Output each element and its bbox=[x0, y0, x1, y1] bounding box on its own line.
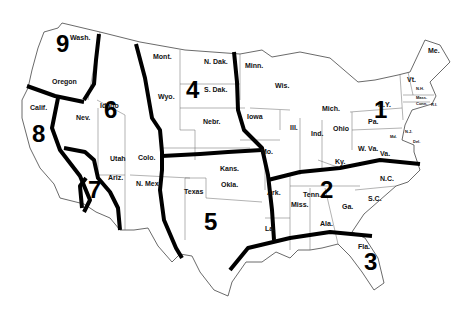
state-label: Ga. bbox=[342, 203, 353, 210]
state-label: Mass. bbox=[416, 96, 427, 100]
region-number: 4 bbox=[186, 78, 199, 102]
region-number: 1 bbox=[374, 98, 387, 122]
state-label: Wash. bbox=[70, 34, 90, 41]
state-label: N.H. bbox=[416, 87, 424, 91]
state-label: Ill. bbox=[290, 124, 298, 131]
state-label: Wyo. bbox=[158, 93, 175, 100]
state-label: Del. bbox=[413, 140, 420, 144]
state-label: Okla. bbox=[221, 181, 238, 188]
region-number: 8 bbox=[32, 122, 45, 146]
state-label: Mo. bbox=[261, 148, 273, 155]
state-label: S. Dak. bbox=[204, 86, 227, 93]
region-number: 6 bbox=[104, 98, 117, 122]
state-label: N.C. bbox=[380, 175, 394, 182]
state-label: Ky. bbox=[335, 158, 345, 165]
state-label: Texas bbox=[184, 188, 203, 195]
state-label: Mont. bbox=[153, 53, 172, 60]
state-label: Ind. bbox=[311, 130, 323, 137]
state-label: Conn. bbox=[416, 102, 427, 106]
state-label: Miss. bbox=[291, 201, 309, 208]
state-label: Ohio bbox=[333, 125, 349, 132]
region-number: 3 bbox=[364, 250, 377, 274]
state-label: Me. bbox=[428, 47, 440, 54]
state-label: Md. bbox=[390, 135, 397, 139]
state-label: N. Dak. bbox=[204, 58, 228, 65]
state-label: R.I. bbox=[431, 103, 437, 107]
state-label: Nev. bbox=[76, 114, 90, 121]
state-label: Calif. bbox=[30, 104, 47, 111]
region-number: 2 bbox=[320, 178, 333, 202]
state-label: Ala. bbox=[320, 220, 333, 227]
map-outline bbox=[0, 0, 472, 310]
state-label: Ariz. bbox=[108, 174, 123, 181]
state-label: Utah bbox=[110, 155, 126, 162]
state-label: Ark. bbox=[267, 189, 281, 196]
state-label: Minn. bbox=[245, 62, 263, 69]
region-number: 9 bbox=[56, 32, 69, 56]
state-label: Va. bbox=[380, 150, 390, 157]
state-label: Kans. bbox=[220, 165, 239, 172]
state-label: Nebr. bbox=[203, 118, 221, 125]
state-label: Colo. bbox=[138, 154, 156, 161]
state-label: Iowa bbox=[247, 113, 263, 120]
state-label: Vt. bbox=[407, 76, 416, 83]
state-label: W. Va. bbox=[358, 145, 378, 152]
us-regions-map: Wash.OregonCalif.IdahoNev.UtahAriz.Colo.… bbox=[0, 0, 472, 310]
state-label: Tenn. bbox=[303, 191, 321, 198]
state-label: Oregon bbox=[52, 78, 77, 85]
state-label: La. bbox=[265, 225, 275, 232]
state-label: Wis. bbox=[275, 82, 289, 89]
state-label: S.C. bbox=[368, 195, 382, 202]
state-label: N.J. bbox=[405, 130, 412, 134]
state-label: N. Mex. bbox=[136, 180, 161, 187]
region-number: 5 bbox=[204, 210, 217, 234]
region-number: 7 bbox=[88, 178, 101, 202]
state-label: Mich. bbox=[322, 105, 340, 112]
